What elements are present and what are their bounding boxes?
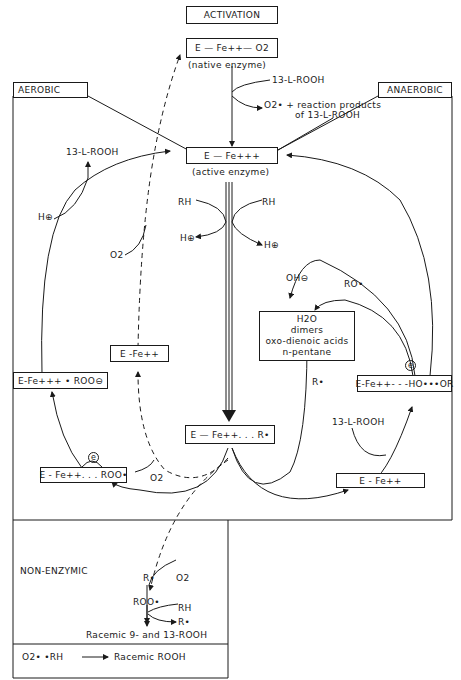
footer-product-label: Racemic ROOH [114,652,186,662]
product-item: H2O [297,314,317,325]
rh-left-label: RH [178,197,192,207]
h-plus-left-label: H⊕ [180,233,195,243]
h-plus-right-label: H⊕ [264,240,279,250]
aerobic-e-fe2-node: E -Fe++ [110,345,169,362]
aerobic-e-fe2-roo-node: E - Fe++. . . ROO• [40,467,127,483]
activation-substrate-label: 13-L-ROOH [272,75,325,85]
nonenzymic-o2-label: O2 [176,573,189,583]
aerobic-13-l-rooh-label: 13-L-ROOH [66,147,119,157]
active-enzyme-caption: (active enzyme) [192,167,269,177]
product-item: dimers [291,325,324,336]
product-item: oxo-dienoic acids [266,336,349,347]
aerobic-h-plus-label: H⊕ [38,212,53,222]
aerobic-section-label: AEROBIC [13,82,88,98]
rh-right-label: RH [262,197,276,207]
aerobic-o2-lower-label: O2 [150,473,163,483]
anaerobic-e-fe2-ho-or-node: E-Fe++- - -HO•••OR [357,375,452,392]
nonenzymic-r2-label: R• [178,617,190,627]
anaerobic-oh-label: OH⊖ [286,273,308,283]
activation-section-label: ACTIVATION [186,6,278,24]
product-item: n-pentane [283,347,332,358]
active-enzyme-node: E — Fe+++ [186,147,278,164]
anaerobic-e-fe2-node: E - Fe++ [336,473,425,488]
anaerobic-products-box: H2O dimers oxo-dienoic acids n-pentane [259,311,355,361]
nonenzymic-racemic-label: Racemic 9- and 13-ROOH [86,630,207,640]
nonenzymic-r-label: R• [143,573,155,583]
aerobic-o2-upper-label: O2 [110,250,123,260]
activation-products-label: O2• + reaction products [264,100,381,110]
non-enzymic-section-label: NON-ENZYMIC [20,566,88,576]
nonenzymic-rh-label: RH [178,603,192,613]
anaerobic-electron-label: e [405,360,416,371]
anaerobic-13-l-rooh-label: 13-L-ROOH [332,417,385,427]
aerobic-e-fe3-roo-node: E-Fe+++ • ROO⊖ [13,372,108,389]
anaerobic-ro-label: RO• [344,279,364,289]
enzyme-radical-complex-node: E — Fe++. . . R• [185,425,275,444]
anaerobic-r-label: R• [312,377,324,387]
footer-reactant-label: O2• •RH [22,652,63,662]
native-enzyme-caption: (native enzyme) [188,60,266,70]
pathway-diagram-lines [0,0,461,680]
activation-products-label-2: of 13-L-ROOH [295,110,360,120]
anaerobic-section-label: ANAEROBIC [378,82,452,98]
nonenzymic-roo-label: ROO• [133,597,160,607]
native-enzyme-node: E — Fe++— O2 [186,38,278,58]
aerobic-electron-label: e [88,452,99,463]
